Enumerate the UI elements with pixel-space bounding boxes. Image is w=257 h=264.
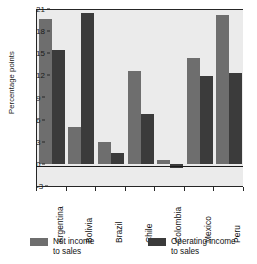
bar-brazil-operating-income — [111, 153, 124, 164]
bar-mexico-operating-income — [200, 76, 213, 164]
y-axis-tick-mark — [47, 53, 50, 54]
bar-argentina-operating-income — [52, 50, 65, 164]
plot-top-border — [36, 9, 243, 10]
bar-chile-operating-income — [141, 114, 154, 163]
plot-area — [36, 9, 243, 186]
y-axis-tick-mark — [42, 97, 45, 98]
legend-swatch-operating-income — [148, 238, 166, 246]
y-axis-tick-mark — [47, 8, 50, 9]
y-axis-tick-label: 21 — [36, 5, 47, 14]
x-axis-tick-mark — [213, 187, 214, 191]
x-axis-tick-mark — [36, 187, 37, 191]
legend-label-operating-income: Operating income to sales — [171, 237, 236, 256]
y-axis-tick-label: 12 — [36, 71, 47, 80]
chart-legend: Net income to sales Operating income to … — [30, 237, 252, 263]
legend-item-net-income: Net income to sales — [30, 237, 94, 256]
x-axis-tick-mark — [95, 187, 96, 191]
zero-baseline — [36, 166, 243, 167]
bar-peru-operating-income — [229, 73, 242, 164]
x-axis-tick-mark — [184, 187, 185, 191]
bars-layer — [37, 9, 243, 186]
y-axis-tick-label: 18 — [36, 27, 47, 36]
y-axis-tick-mark — [47, 75, 50, 76]
bar-bolivia-net-income — [68, 127, 81, 164]
legend-label-operating-income-line1: Operating income — [171, 237, 236, 247]
bar-peru-net-income — [216, 15, 229, 164]
legend-item-operating-income: Operating income to sales — [148, 237, 236, 256]
y-axis-tick-label: 15 — [36, 49, 47, 58]
legend-label-operating-income-line2: to sales — [171, 247, 236, 257]
y-axis-tick-mark — [42, 141, 45, 142]
legend-label-net-income-line1: Net income — [53, 237, 94, 247]
bar-bolivia-operating-income — [81, 13, 94, 164]
y-axis-title: Percentage points — [7, 28, 16, 138]
x-axis-tick-mark — [66, 187, 67, 191]
legend-label-net-income-line2: to sales — [53, 247, 94, 257]
bar-chart-figure: Percentage points 211815129630-3 Argenti… — [0, 0, 257, 264]
y-axis-tick-mark — [47, 31, 50, 32]
legend-swatch-net-income — [30, 238, 48, 246]
bar-chile-net-income — [128, 71, 141, 164]
y-axis-tick-mark — [42, 163, 45, 164]
y-axis-tick-mark — [42, 119, 45, 120]
x-axis-tick-mark — [125, 187, 126, 191]
bar-brazil-net-income — [98, 142, 111, 163]
x-axis-tick-mark — [243, 187, 244, 191]
legend-label-net-income: Net income to sales — [53, 237, 94, 256]
bar-colombia-net-income — [157, 160, 170, 164]
x-axis-tick-mark — [154, 187, 155, 191]
bar-mexico-net-income — [187, 58, 200, 164]
